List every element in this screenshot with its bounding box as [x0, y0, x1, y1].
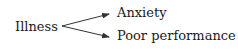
node-poor-performance: Poor performance — [117, 29, 236, 42]
arrow-to-anxiety — [62, 14, 109, 26]
arrow-to-poor-performance — [62, 26, 109, 37]
node-anxiety: Anxiety — [117, 6, 167, 19]
